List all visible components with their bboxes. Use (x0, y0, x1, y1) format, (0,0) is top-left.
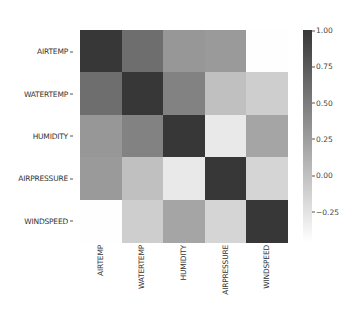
heatmap-cell (122, 115, 164, 158)
heatmap-cell (80, 200, 122, 243)
heatmap-cell (246, 157, 288, 200)
heatmap-cell (205, 115, 247, 158)
heatmap-cell (205, 200, 247, 243)
y-tick-label: WINDSPEED (24, 216, 73, 225)
heatmap-cell (246, 72, 288, 115)
heatmap-cell (246, 115, 288, 158)
heatmap-cell (163, 115, 205, 158)
x-tick-label: WINDSPEED (262, 245, 271, 289)
heatmap-cell (122, 157, 164, 200)
heatmap-cell (163, 200, 205, 243)
correlation-heatmap: AIRTEMPWATERTEMPHUMIDITYAIRPRESSUREWINDS… (0, 0, 355, 316)
heatmap-cell (122, 200, 164, 243)
heatmap-cell (246, 30, 288, 73)
x-tick-label: WATERTEMP (137, 245, 146, 289)
colorbar-tick-label: 0.25 (316, 134, 333, 143)
colorbar (303, 30, 312, 242)
heatmap-cell (163, 30, 205, 73)
colorbar-tick-label: −0.25 (316, 207, 339, 216)
heatmap-cell (246, 200, 288, 243)
colorbar-tick-label: 0.75 (316, 62, 333, 71)
heatmap-cell (163, 72, 205, 115)
heatmap-cell (80, 72, 122, 115)
heatmap-cell (205, 30, 247, 73)
heatmap-cell (80, 115, 122, 158)
heatmap-cell (80, 157, 122, 200)
y-tick-label: WATERTEMP (24, 89, 73, 98)
heatmap-cell (122, 72, 164, 115)
heatmap-cell (122, 30, 164, 73)
colorbar-tick-label: 1.00 (316, 26, 333, 35)
heatmap-cell (163, 157, 205, 200)
y-tick-label: AIRTEMP (37, 47, 73, 56)
x-tick-label: AIRTEMP (96, 245, 105, 276)
x-tick-label: HUMIDITY (179, 245, 188, 280)
x-tick-label: AIRPRESSURE (221, 245, 230, 295)
heatmap-cell (205, 157, 247, 200)
heatmap-cell (80, 30, 122, 73)
y-tick-label: AIRPRESSURE (18, 174, 73, 183)
heatmap-cell (205, 72, 247, 115)
colorbar-tick-label: 0.50 (316, 98, 333, 107)
y-tick-label: HUMIDITY (33, 132, 73, 141)
colorbar-tick-label: 0.00 (316, 171, 333, 180)
